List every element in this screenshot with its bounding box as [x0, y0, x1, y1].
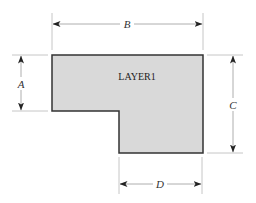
dimension-d: D	[119, 157, 202, 194]
d-label: D	[155, 178, 164, 190]
dimension-b: B	[52, 13, 203, 50]
b-label: B	[124, 18, 131, 30]
dimension-c: C	[207, 55, 243, 153]
layer1-shape	[52, 55, 203, 153]
dimension-a: A	[12, 55, 48, 111]
layer1-label: LAYER1	[118, 71, 155, 82]
layer-dimension-diagram: LAYER1 B A C D	[0, 0, 256, 203]
c-label: C	[229, 99, 237, 111]
a-label: A	[17, 78, 25, 90]
